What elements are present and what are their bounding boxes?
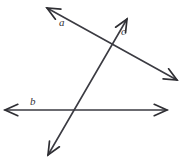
geometry-diagram: a b c — [0, 0, 182, 160]
line-label-c: c — [121, 26, 126, 37]
line-c-segment — [48, 19, 127, 155]
line-label-b: b — [30, 96, 36, 107]
line-c-start-arrowhead-icon — [48, 141, 59, 155]
line-c — [48, 19, 127, 155]
line-label-a: a — [59, 17, 65, 28]
line-a-end-arrowhead-icon — [163, 69, 177, 80]
geometry-canvas — [0, 0, 182, 160]
